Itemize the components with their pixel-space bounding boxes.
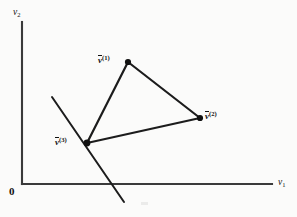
edge-v2-v3 — [87, 118, 200, 143]
vertex-dot-v1 — [125, 59, 131, 65]
vector-label-v1: v(1) — [98, 55, 110, 65]
vector-diagram-figure: v2 v1 0 v(1) v(2) v(3) — [0, 0, 297, 217]
vector-label-v2: v(2) — [205, 111, 217, 121]
vector-label-v1-variable: v — [98, 56, 102, 65]
vector-label-v2-superscript: (2) — [209, 110, 217, 117]
origin-label: 0 — [9, 186, 15, 197]
y-axis-label-subscript: 2 — [17, 11, 20, 18]
x-axis-label: v1 — [278, 178, 285, 188]
vector-label-v3: v(3) — [55, 137, 67, 147]
vector-label-v3-superscript: (3) — [59, 136, 67, 143]
vector-label-v1-superscript: (1) — [102, 54, 110, 61]
x-axis-label-subscript: 1 — [282, 181, 285, 188]
edge-v1-v2 — [128, 62, 200, 118]
vertex-dot-v3 — [84, 140, 91, 147]
vector-label-v3-variable: v — [55, 138, 59, 147]
figure-canvas — [0, 0, 297, 217]
y-axis-label: v2 — [13, 8, 20, 18]
line-through-v3 — [52, 97, 124, 202]
vector-label-v2-variable: v — [205, 112, 209, 121]
edge-v3-v1 — [87, 62, 128, 143]
vertex-dot-v2 — [197, 115, 203, 121]
